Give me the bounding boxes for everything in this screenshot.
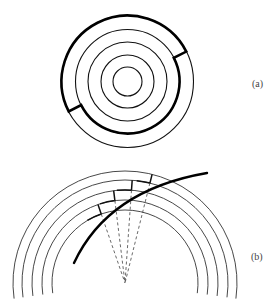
dashed-radial-0 bbox=[101, 214, 125, 283]
thick-path bbox=[62, 16, 187, 134]
panel-a-label: (a) bbox=[252, 78, 263, 89]
dashed-radial-3 bbox=[125, 183, 150, 283]
panel-b-label: (b) bbox=[251, 251, 263, 262]
ring-3 bbox=[101, 55, 154, 108]
stair-step-2 bbox=[117, 180, 132, 190]
stair-step-3 bbox=[137, 174, 152, 183]
ring-4 bbox=[113, 67, 142, 96]
diagram-canvas bbox=[0, 0, 275, 304]
thick-curve bbox=[74, 173, 207, 263]
dashed-radial-1 bbox=[115, 201, 125, 283]
stair-step-0 bbox=[87, 205, 101, 221]
panel-b-concentric-arcs bbox=[13, 171, 237, 299]
panel-a-concentric-circles bbox=[62, 16, 194, 148]
ring-2 bbox=[88, 42, 167, 121]
